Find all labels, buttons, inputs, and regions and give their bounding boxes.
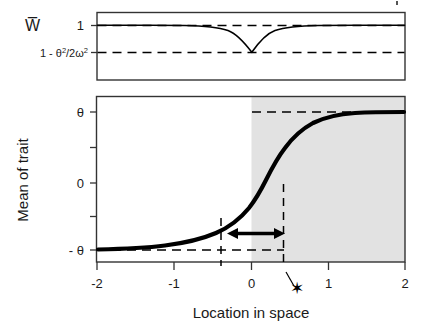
scan-artifact-speck — [396, 1, 398, 5]
bottom-panel-ytick-label-neg-theta: - θ — [69, 243, 84, 258]
figure-canvas: W̅ 1 1 - θ2/2ω2 — [0, 0, 426, 334]
bottom-panel-group — [90, 97, 405, 287]
top-panel-ytick-label-dip-group: 1 - θ2/2ω2 — [40, 46, 88, 59]
bottom-panel-xaxis-title: Location in space — [193, 304, 310, 321]
displacement-arrow-head-left — [227, 228, 238, 239]
dip-mid: /2ω — [66, 47, 84, 59]
bottom-panel-ytick-label-zero: 0 — [77, 176, 84, 191]
top-panel-ylabel-group: W̅ — [25, 17, 41, 34]
top-panel-ytick-label-dip: 1 - θ2/2ω2 — [40, 46, 88, 59]
dip-prefix: 1 - θ — [40, 47, 62, 59]
optimum-star-marker: ✶ — [290, 279, 304, 298]
top-panel-ytick-label-one: 1 — [77, 18, 84, 33]
bottom-panel-xtick-label--1: -1 — [168, 276, 180, 291]
top-panel-fitness-curve — [98, 25, 405, 52]
bottom-panel-xtick-label--2: -2 — [91, 276, 103, 291]
bottom-panel-xtick-label-0: 0 — [248, 276, 255, 291]
figure-root: W̅ 1 1 - θ2/2ω2 — [0, 0, 426, 334]
bottom-panel-xtick-label-2: 2 — [401, 276, 408, 291]
top-panel-group — [91, 13, 405, 81]
bottom-panel-xtick-label-1: 1 — [325, 276, 332, 291]
dip-sup-2: 2 — [84, 46, 88, 55]
top-panel-frame — [97, 13, 405, 81]
bottom-panel-yaxis-title: Mean of trait — [14, 137, 31, 221]
top-panel-ylabel-wbar: W̅ — [25, 17, 41, 34]
bottom-panel-ytick-label-theta: θ — [77, 105, 84, 120]
